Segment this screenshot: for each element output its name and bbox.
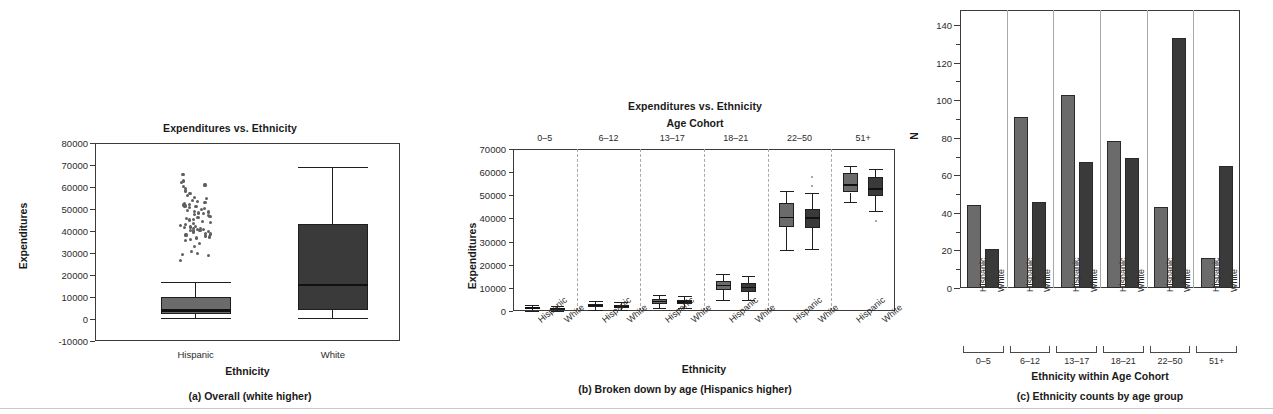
panel-c-cohort-label: 6–12: [1007, 356, 1054, 366]
panel-a-y-tick-mark: [90, 187, 95, 188]
panel-a-outlier-point: [193, 245, 196, 248]
panel-b-y-tick: 10000: [450, 282, 506, 293]
panel-c-y-minor-tick: [956, 194, 960, 195]
panel-a-whisker-upper: [332, 167, 333, 224]
panel-b-cohort-label: 51+: [831, 133, 895, 143]
panel-c-y-tick: 120: [900, 57, 952, 68]
figure-root: Expenditures vs. Ethnicity Expenditures …: [0, 0, 1273, 414]
panel-a-outlier-point: [188, 192, 191, 195]
panel-a-outlier-point: [197, 211, 200, 214]
panel-b-y-tick-mark: [509, 242, 513, 243]
panel-c-cohort-bracket: [1056, 346, 1097, 353]
panel-b-whisker-upper: [812, 193, 813, 209]
panel-b-boxplot: Expenditures vs. Ethnicity Age Cohort Ex…: [455, 95, 905, 414]
panel-c-cohort-bracket: [1010, 346, 1051, 353]
panel-a-y-tick-mark: [90, 275, 95, 276]
panel-a-y-tick: 20000: [30, 270, 88, 281]
panel-a-outlier-point: [194, 225, 197, 228]
panel-c-x-tick: White: [1042, 269, 1052, 292]
panel-c-x-tick: White: [996, 269, 1006, 292]
panel-b-whisker-cap-upper: [525, 305, 539, 306]
panel-c-group-separator: [1053, 10, 1054, 288]
panel-a-outlier-point: [208, 235, 211, 238]
panel-b-group-separator: [704, 149, 705, 311]
panel-a-outlier-point: [207, 210, 210, 213]
panel-a-whisker-lower: [332, 310, 333, 318]
panel-b-y-tick-mark: [509, 218, 513, 219]
panel-c-y-tick-mark: [954, 250, 960, 251]
panel-a-outlier-point: [184, 223, 187, 226]
panel-b-median-line: [741, 287, 756, 289]
panel-a-whisker-cap-upper: [161, 282, 231, 283]
panel-b-whisker-cap-upper: [742, 276, 756, 277]
panel-b-y-tick: 0: [450, 306, 506, 317]
panel-a-y-tick-mark: [90, 297, 95, 298]
panel-c-y-tick: 60: [900, 170, 952, 181]
panel-a-outlier-point: [189, 225, 192, 228]
panel-c-x-tick: Hispanic: [1165, 257, 1175, 292]
panel-b-group-separator: [768, 149, 769, 311]
panel-c-caption: (c) Ethnicity counts by age group: [930, 390, 1270, 402]
panel-b-subtitle: Age Cohort: [505, 117, 885, 129]
panel-b-whisker-cap-lower: [780, 250, 794, 251]
panel-c-y-tick: 0: [900, 283, 952, 294]
panel-a-whisker-cap-lower: [298, 318, 368, 319]
panel-c-x-tick: White: [1136, 269, 1146, 292]
panel-c-cohort-label: 13–17: [1053, 356, 1100, 366]
panel-c-y-tick-mark: [954, 288, 960, 289]
panel-b-whisker-upper: [875, 169, 876, 177]
panel-c-y-tick: 100: [900, 95, 952, 106]
panel-a-outlier-point: [192, 222, 195, 225]
panel-a-y-tick: 0: [30, 314, 88, 325]
panel-c-y-tick: 40: [900, 207, 952, 218]
panel-b-whisker-cap-lower: [525, 311, 539, 312]
panel-a-x-tick: White: [283, 349, 383, 360]
panel-a-caption: (a) Overall (white higher): [40, 390, 460, 402]
panel-a-outlier-point: [198, 242, 201, 245]
panel-c-cohort-label: 18–21: [1100, 356, 1147, 366]
panel-b-y-tick-mark: [509, 288, 513, 289]
panel-c-y-tick-mark: [954, 63, 960, 64]
panel-a-outlier-point: [209, 232, 212, 235]
panel-a-ylabel: Expenditures: [17, 191, 29, 281]
panel-c-x-tick: Hispanic: [1071, 257, 1081, 292]
panel-c-cohort-bracket: [963, 346, 1004, 353]
panel-b-whisker-cap-lower: [844, 202, 858, 203]
panel-c-cohort-bracket: [1196, 346, 1237, 353]
panel-a-outlier-point: [184, 233, 187, 236]
panel-a-y-tick-mark: [90, 319, 95, 320]
panel-b-box: [843, 173, 858, 193]
panel-c-y-tick: 20: [900, 245, 952, 256]
panel-a-box: [298, 224, 368, 310]
panel-c-group-separator: [1007, 10, 1008, 288]
panel-a-y-tick: 80000: [30, 138, 88, 149]
panel-a-y-tick-mark: [90, 143, 95, 144]
panel-c-cohort-label: 0–5: [960, 356, 1007, 366]
panel-b-whisker-upper: [748, 276, 749, 283]
panel-a-outlier-point: [203, 201, 206, 204]
panel-b-median-line: [868, 188, 883, 190]
panel-b-whisker-cap-lower: [589, 310, 603, 311]
panel-c-y-tick-mark: [954, 25, 960, 26]
panel-c-barchart: N 140120100806040200 HispanicHispanicHis…: [900, 0, 1273, 414]
panel-b-title: Expenditures vs. Ethnicity: [505, 100, 885, 112]
panel-b-y-tick-mark: [509, 195, 513, 196]
panel-a-outlier-point: [186, 209, 189, 212]
panel-b-whisker-lower: [723, 290, 724, 299]
panel-b-y-tick: 60000: [450, 167, 506, 178]
panel-c-y-minor-tick: [956, 232, 960, 233]
panel-b-median-line: [716, 285, 731, 287]
panel-b-group-separator: [577, 149, 578, 311]
panel-c-x-tick: Hispanic: [978, 257, 988, 292]
panel-b-whisker-lower: [850, 193, 851, 202]
panel-c-group-separator: [1193, 10, 1194, 288]
panel-c-x-tick: White: [1182, 269, 1192, 292]
panel-b-caption: (b) Broken down by age (Hispanics higher…: [465, 383, 905, 395]
panel-b-whisker-lower: [812, 228, 813, 249]
panel-b-whisker-upper: [850, 166, 851, 173]
panel-a-y-tick-mark: [90, 253, 95, 254]
panel-a-outlier-point: [182, 185, 185, 188]
panel-a-outlier-point: [192, 218, 195, 221]
panel-b-cohort-label: 0–5: [513, 133, 577, 143]
panel-c-y-tick: 140: [900, 20, 952, 31]
